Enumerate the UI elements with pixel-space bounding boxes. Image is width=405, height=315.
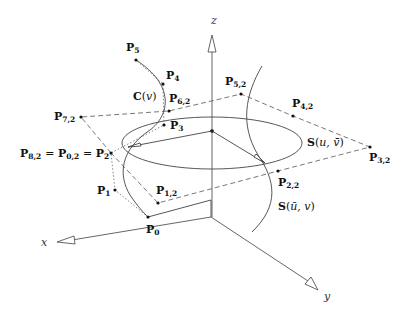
y-axis-arrow-icon: [305, 277, 318, 290]
label-p62: P6,2: [169, 93, 190, 106]
z-axis-arrow-icon: [208, 35, 216, 52]
label-surface-iso-u: S(u, v̄): [307, 137, 344, 148]
axes: [57, 35, 318, 290]
y-axis-label: y: [324, 291, 330, 302]
label-p12: P1,2: [156, 185, 177, 198]
surface-iso-v-curve: [247, 66, 272, 232]
label-p1: P1: [97, 185, 111, 198]
label-p4: P4: [166, 70, 180, 83]
z-axis-label: z: [211, 15, 217, 26]
label-p2-equality: P8,2 = P0,2 = P2: [20, 148, 109, 161]
x-axis: [72, 217, 211, 240]
label-p22: P2,2: [278, 177, 299, 190]
radial-lines: [128, 129, 265, 217]
y-axis: [211, 217, 308, 281]
label-p32: P3,2: [369, 152, 390, 165]
arrow-icon: [254, 154, 265, 163]
label-generatrix-curve: C(v): [133, 91, 157, 102]
x-axis-label: x: [41, 237, 47, 248]
label-p72: P7,2: [54, 111, 75, 124]
label-surface-iso-v: S(ū, v): [278, 201, 315, 212]
x-axis-arrow-icon: [57, 236, 75, 244]
label-p42: P4,2: [292, 98, 313, 111]
label-p3: P3: [170, 120, 184, 133]
label-p0: P0: [146, 224, 160, 237]
label-p52: P5,2: [225, 76, 246, 89]
diagram-canvas: z x y P5 P4 P6,2 P3 P7,2 P8,2 = P0,2 = P…: [0, 0, 405, 315]
label-p5: P5: [126, 42, 140, 55]
